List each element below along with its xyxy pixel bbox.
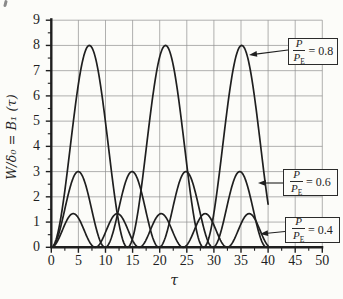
ratio-value: = 0.6 — [306, 175, 331, 190]
y-tick-label: 8 — [22, 36, 40, 54]
x-axis-title: τ — [164, 272, 184, 288]
x-tick-label: 40 — [256, 252, 280, 270]
callout-ratio-0.4: P PE = 0.4 — [285, 217, 340, 243]
fraction-numerator: P — [293, 38, 306, 51]
y-tick-label: 3 — [22, 163, 40, 181]
fraction-numerator: P — [290, 169, 303, 182]
fraction-denominator: PE — [292, 229, 305, 243]
callout-arrow-line — [254, 50, 288, 54]
ratio-value: = 0.4 — [308, 223, 333, 238]
ratio-value: = 0.8 — [308, 44, 333, 59]
x-tick-label: 15 — [121, 252, 145, 270]
chart-figure: W/δ₀ = B₁ (τ) τ P PE = 0.8 P PE = 0.6 P … — [0, 0, 343, 299]
fraction-p-over-pe: P PE — [293, 38, 306, 65]
callout-ratio-0.8: P PE = 0.8 — [288, 38, 338, 65]
fraction-p-over-pe: P PE — [292, 216, 305, 243]
y-tick-label: 9 — [22, 11, 40, 29]
y-axis-title: W/δ₀ = B₁ (τ) — [4, 94, 19, 179]
fraction-numerator: P — [292, 216, 305, 229]
fraction-denominator: PE — [293, 51, 306, 65]
y-tick-label: 4 — [22, 137, 40, 155]
x-tick-label: 0 — [39, 252, 63, 270]
x-tick-label: 30 — [202, 252, 226, 270]
y-tick-label: 2 — [22, 188, 40, 206]
y-tick-label: 0 — [22, 238, 40, 256]
x-tick-label: 35 — [229, 252, 253, 270]
y-tick-label: 6 — [22, 87, 40, 105]
y-tick-label: 7 — [22, 62, 40, 80]
denominator-subscript: E — [298, 188, 303, 197]
callout-arrowhead-icon — [258, 180, 266, 186]
denominator-subscript: E — [300, 236, 305, 245]
x-tick-label: 10 — [94, 252, 118, 270]
y-tick-label: 1 — [22, 213, 40, 231]
y-tick-label: 5 — [22, 112, 40, 130]
callout-ratio-0.6: P PE = 0.6 — [283, 169, 338, 196]
denominator-subscript: E — [300, 57, 305, 66]
x-tick-label: 25 — [175, 252, 199, 270]
denominator-base: P — [293, 229, 300, 241]
fraction-denominator: PE — [290, 182, 303, 196]
x-tick-label: 5 — [66, 252, 90, 270]
callout-arrowhead-icon — [249, 51, 257, 57]
denominator-base: P — [291, 182, 298, 194]
x-tick-label: 20 — [148, 252, 172, 270]
x-tick-label: 45 — [283, 252, 307, 270]
fraction-p-over-pe: P PE — [290, 169, 303, 196]
x-tick-label: 50 — [310, 252, 334, 270]
